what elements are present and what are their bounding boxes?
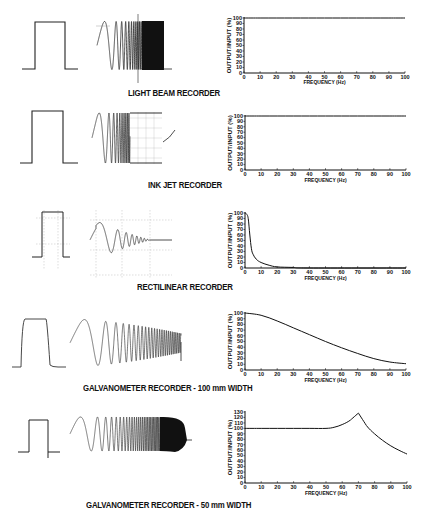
chart-axes <box>245 212 406 268</box>
y-tick-label: 40 <box>237 145 243 151</box>
y-tick-label: 20 <box>237 355 243 361</box>
x-axis-label: FREQUENCY (Hz) <box>304 177 346 183</box>
x-tick-label: 100 <box>401 371 410 377</box>
x-tick-label: 80 <box>371 371 377 377</box>
x-tick-label: 90 <box>387 171 393 177</box>
x-tick-label: 100 <box>401 269 410 275</box>
x-tick-label: 90 <box>387 269 393 275</box>
x-tick-label: 100 <box>402 484 411 490</box>
y-tick-label: 100 <box>234 113 243 119</box>
y-tick-label: 60 <box>237 134 243 140</box>
x-tick-label: 70 <box>355 484 361 490</box>
chart-4: 0102030405060708090100010203040506070809… <box>227 310 411 383</box>
y-tick-label: 90 <box>237 215 243 221</box>
y-tick-label: 60 <box>236 37 242 43</box>
y-axis-label: OUTPUT/INPUT (%) <box>227 213 233 268</box>
y-tick-label: 10 <box>237 259 243 265</box>
chart-axes <box>245 411 407 483</box>
y-tick-label: 60 <box>237 232 243 238</box>
x-tick-label: 80 <box>371 171 377 177</box>
y-tick-label: 80 <box>236 26 242 32</box>
y-tick-label: 90 <box>237 118 243 124</box>
chart-2: 0102030405060708090100010203040506070809… <box>227 113 411 183</box>
y-tick-label: 30 <box>237 463 243 469</box>
y-tick-label: 100 <box>234 310 243 316</box>
x-axis-label: FREQUENCY (Hz) <box>305 490 347 496</box>
y-tick-label: 90 <box>237 316 243 322</box>
y-tick-label: 10 <box>236 64 242 70</box>
y-tick-label: 40 <box>237 458 243 464</box>
y-tick-label: 70 <box>236 31 242 37</box>
y-axis-label: OUTPUT/INPUT (%) <box>227 420 233 475</box>
x-tick-label: 10 <box>258 171 264 177</box>
x-tick-label: 90 <box>386 74 392 80</box>
x-tick-label: 30 <box>291 484 297 490</box>
x-tick-label: 10 <box>258 484 264 490</box>
y-tick-label: 10 <box>237 474 243 480</box>
y-tick-label: 80 <box>237 221 243 227</box>
x-axis-label: FREQUENCY (Hz) <box>303 79 345 85</box>
y-tick-label: 20 <box>236 59 242 65</box>
x-tick-label: 20 <box>274 269 280 275</box>
x-tick-label: 20 <box>274 371 280 377</box>
x-tick-label: 20 <box>274 171 280 177</box>
x-tick-label: 10 <box>258 269 264 275</box>
y-tick-label: 50 <box>237 140 243 146</box>
y-tick-label: 90 <box>237 431 243 437</box>
x-tick-label: 80 <box>372 484 378 490</box>
x-tick-label: 100 <box>401 171 410 177</box>
y-tick-label: 30 <box>237 350 243 356</box>
y-tick-label: 20 <box>237 156 243 162</box>
chart-1: 0102030405060708090100010203040506070809… <box>226 15 410 85</box>
y-tick-label: 100 <box>234 210 243 216</box>
response-curve <box>245 213 406 268</box>
y-axis-label: OUTPUT/INPUT (%) <box>227 314 233 369</box>
x-tick-label: 90 <box>387 371 393 377</box>
y-tick-label: 50 <box>236 42 242 48</box>
x-tick-label: 30 <box>290 171 296 177</box>
y-tick-label: 60 <box>237 447 243 453</box>
y-tick-label: 100 <box>233 15 242 21</box>
x-tick-label: 70 <box>355 269 361 275</box>
x-axis-label: FREQUENCY (Hz) <box>304 275 346 281</box>
frequency-response-charts: 0102030405060708090100010203040506070809… <box>0 0 429 516</box>
y-tick-label: 20 <box>237 469 243 475</box>
chart-axes <box>245 115 406 170</box>
y-axis-label: OUTPUT/INPUT (%) <box>226 18 232 73</box>
y-tick-label: 10 <box>237 361 243 367</box>
y-tick-label: 40 <box>236 48 242 54</box>
chart-3: 0102030405060708090100010203040506070809… <box>227 210 411 281</box>
x-tick-label: 30 <box>290 269 296 275</box>
y-tick-label: 130 <box>234 409 243 415</box>
y-tick-label: 70 <box>237 129 243 135</box>
x-tick-label: 100 <box>400 74 409 80</box>
y-tick-label: 80 <box>237 124 243 130</box>
x-tick-label: 70 <box>355 171 361 177</box>
x-tick-label: 0 <box>242 74 245 80</box>
y-tick-label: 120 <box>234 414 243 420</box>
x-tick-label: 10 <box>257 74 263 80</box>
y-tick-label: 10 <box>237 161 243 167</box>
y-tick-label: 100 <box>234 425 243 431</box>
x-tick-label: 90 <box>388 484 394 490</box>
y-tick-label: 30 <box>237 151 243 157</box>
x-tick-label: 70 <box>355 371 361 377</box>
x-tick-label: 0 <box>243 269 246 275</box>
x-tick-label: 30 <box>290 371 296 377</box>
y-tick-label: 30 <box>237 248 243 254</box>
y-tick-label: 40 <box>237 243 243 249</box>
y-tick-label: 50 <box>237 452 243 458</box>
y-axis-label: OUTPUT/INPUT (%) <box>227 115 233 170</box>
y-tick-label: 80 <box>237 436 243 442</box>
response-curve <box>245 313 406 364</box>
y-tick-label: 50 <box>237 338 243 344</box>
x-tick-label: 0 <box>243 484 246 490</box>
y-tick-label: 70 <box>237 226 243 232</box>
y-tick-label: 50 <box>237 237 243 243</box>
x-tick-label: 20 <box>274 484 280 490</box>
y-tick-label: 70 <box>237 327 243 333</box>
x-tick-label: 80 <box>371 269 377 275</box>
y-tick-label: 40 <box>237 344 243 350</box>
y-tick-label: 110 <box>234 420 243 426</box>
y-tick-label: 20 <box>237 254 243 260</box>
